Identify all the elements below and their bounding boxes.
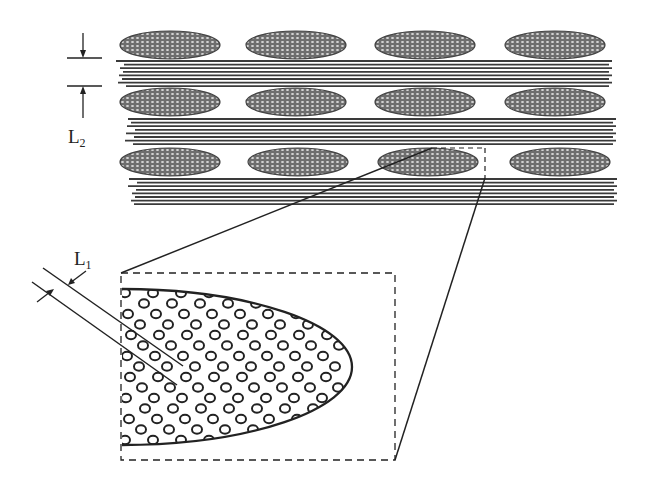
fiber-circle xyxy=(288,436,298,444)
fiber-circle xyxy=(235,310,245,318)
fiber-circle xyxy=(331,320,341,328)
fiber-circle xyxy=(280,404,290,412)
fiber-circle xyxy=(319,310,329,318)
fiber-circle xyxy=(252,404,262,412)
fiber-circle xyxy=(166,341,176,349)
fiber-circle xyxy=(182,331,192,339)
fiber-circle xyxy=(222,341,232,349)
fiber-circle xyxy=(236,415,246,423)
fiber-circle xyxy=(135,320,145,328)
fiber-circle xyxy=(124,415,134,423)
fiber-circle xyxy=(178,352,188,360)
fiber-circle xyxy=(123,310,133,318)
fiber-circle xyxy=(260,289,270,297)
fiber-layers xyxy=(116,61,617,204)
fiber-circle xyxy=(206,352,216,360)
fiber-circle xyxy=(276,425,286,433)
fiber-circle xyxy=(266,331,276,339)
fiber-circle xyxy=(180,415,190,423)
fiber-circle xyxy=(151,310,161,318)
fiber-circle xyxy=(247,320,257,328)
fiber-circle xyxy=(168,404,178,412)
fiber-circle xyxy=(246,362,256,370)
fiber-circle xyxy=(306,341,316,349)
fiber-circle xyxy=(167,299,177,307)
fiber-circle xyxy=(237,373,247,381)
fiber-circle xyxy=(316,289,326,297)
fiber-circle xyxy=(277,383,287,391)
fiber-circle xyxy=(193,383,203,391)
fiber-bundle-ellipse xyxy=(375,31,475,59)
fiber-circle xyxy=(139,299,149,307)
fiber-circle xyxy=(162,362,172,370)
label-l1: L1 xyxy=(74,248,92,272)
fiber-bundle-ellipse xyxy=(248,148,348,176)
fiber-circle xyxy=(249,383,259,391)
fiber-circle xyxy=(165,383,175,391)
fiber-circle xyxy=(318,352,328,360)
fiber-circle xyxy=(317,394,327,402)
fiber-circle xyxy=(294,331,304,339)
fiber-circle xyxy=(223,299,233,307)
fiber-circles xyxy=(120,289,346,444)
magnified-bundle-cross-section xyxy=(120,289,352,445)
label-l2: L2 xyxy=(68,126,86,150)
fiber-circle xyxy=(232,289,242,297)
fiber-circle xyxy=(275,320,285,328)
fiber-circle xyxy=(232,436,242,444)
fiber-circle xyxy=(140,404,150,412)
fiber-circle xyxy=(261,394,271,402)
fiber-circle xyxy=(125,373,135,381)
fiber-circle xyxy=(207,310,217,318)
fiber-circle xyxy=(134,362,144,370)
fiber-circle xyxy=(293,373,303,381)
composite-structure-diagram: L2 L1 xyxy=(0,0,651,482)
fiber-bundle-ellipse xyxy=(120,31,220,59)
fiber-circle xyxy=(238,331,248,339)
fiber-circle xyxy=(316,436,326,444)
fiber-circle xyxy=(208,415,218,423)
fiber-circle xyxy=(307,299,317,307)
fiber-circle xyxy=(219,320,229,328)
fiber-bundle-ellipse xyxy=(375,88,475,116)
dimension-l1 xyxy=(32,268,183,385)
dimension-l2 xyxy=(67,33,102,118)
fiber-bundle-ellipse xyxy=(505,31,605,59)
fiber-circle xyxy=(154,331,164,339)
fiber-bundle-ellipse xyxy=(120,88,220,116)
arrow-down-icon xyxy=(80,50,86,58)
fiber-circle xyxy=(290,352,300,360)
fiber-circle xyxy=(233,394,243,402)
fiber-circle xyxy=(330,362,340,370)
fiber-circle xyxy=(263,310,273,318)
fiber-circle xyxy=(302,362,312,370)
l1-upper-line xyxy=(43,268,183,366)
fiber-circle xyxy=(335,299,345,307)
fiber-circle xyxy=(152,415,162,423)
fiber-circle xyxy=(122,352,132,360)
bundle-cross-sections xyxy=(120,31,610,176)
fiber-circle xyxy=(274,362,284,370)
fiber-circle xyxy=(164,425,174,433)
fiber-circle xyxy=(234,352,244,360)
fiber-circle xyxy=(190,362,200,370)
fiber-circle xyxy=(224,404,234,412)
fiber-circle xyxy=(163,320,173,328)
fiber-circle xyxy=(181,373,191,381)
fiber-circle xyxy=(195,299,205,307)
fiber-circle xyxy=(136,425,146,433)
fiber-circle xyxy=(279,299,289,307)
fiber-circle xyxy=(138,341,148,349)
fiber-circle xyxy=(192,425,202,433)
fiber-circle xyxy=(278,341,288,349)
fiber-circle xyxy=(210,331,220,339)
fiber-bundle-ellipse xyxy=(378,148,478,176)
arrow-icon xyxy=(68,278,75,285)
fiber-circle xyxy=(205,394,215,402)
fiber-bundle-ellipse xyxy=(120,148,220,176)
fiber-circle xyxy=(304,425,314,433)
fiber-circle xyxy=(137,383,147,391)
fiber-circle xyxy=(336,404,346,412)
fiber-circle xyxy=(196,404,206,412)
fiber-circle xyxy=(179,310,189,318)
